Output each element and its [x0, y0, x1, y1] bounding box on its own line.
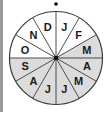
center-hub-dot: [54, 56, 58, 60]
month-label: N: [29, 29, 37, 41]
month-label: D: [44, 21, 52, 33]
month-label: J: [45, 83, 51, 95]
month-label: M: [74, 75, 83, 87]
month-label: O: [21, 44, 30, 56]
month-label: A: [83, 60, 91, 72]
month-label: J: [61, 21, 67, 33]
top-marker-dot: [54, 2, 58, 6]
month-label: F: [75, 29, 82, 41]
month-label: J: [61, 83, 67, 95]
month-label: S: [21, 60, 28, 72]
month-label: A: [29, 75, 37, 87]
month-label: M: [82, 44, 91, 56]
month-wheel-diagram: JFMAMJJASOND: [0, 0, 110, 120]
